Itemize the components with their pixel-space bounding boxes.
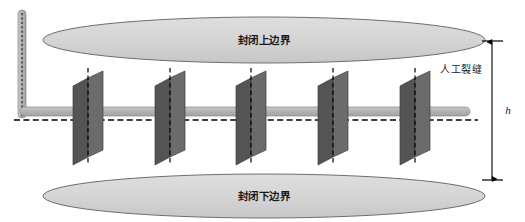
diagram-canvas: 封闭上边界 bbox=[0, 0, 525, 222]
height-dimension-group: h bbox=[482, 41, 511, 180]
lower-boundary-label: 封闭下边界 bbox=[238, 190, 291, 202]
fracture-annotation-label: 人工裂缝 bbox=[440, 63, 482, 75]
fracture-5-front-face bbox=[415, 71, 430, 157]
fracture-1-front-face bbox=[88, 71, 103, 157]
lower-boundary-group: 封闭下边界 bbox=[43, 174, 485, 218]
fracture-2-side-face bbox=[155, 78, 170, 165]
fractured-horizontal-well-diagram: 封闭上边界 bbox=[0, 0, 525, 222]
upper-boundary-label: 封闭上边界 bbox=[238, 34, 291, 46]
fracture-plate-3 bbox=[236, 68, 266, 165]
fracture-2-front-face bbox=[170, 71, 185, 157]
fracture-4-front-face bbox=[333, 71, 348, 157]
fracture-3-side-face bbox=[236, 78, 251, 165]
fracture-1-side-face bbox=[73, 78, 88, 165]
fracture-5-side-face bbox=[400, 78, 415, 165]
fracture-plate-5 bbox=[400, 68, 430, 165]
fracture-plate-4 bbox=[318, 68, 348, 165]
fracture-plate-1 bbox=[73, 68, 103, 165]
vertical-wellbore-group bbox=[18, 10, 26, 118]
upper-boundary-group: 封闭上边界 bbox=[43, 17, 485, 63]
height-dimension-label: h bbox=[505, 104, 511, 116]
fracture-3-front-face bbox=[251, 71, 266, 157]
fracture-plate-2 bbox=[155, 68, 185, 165]
fracture-4-side-face bbox=[318, 78, 333, 165]
